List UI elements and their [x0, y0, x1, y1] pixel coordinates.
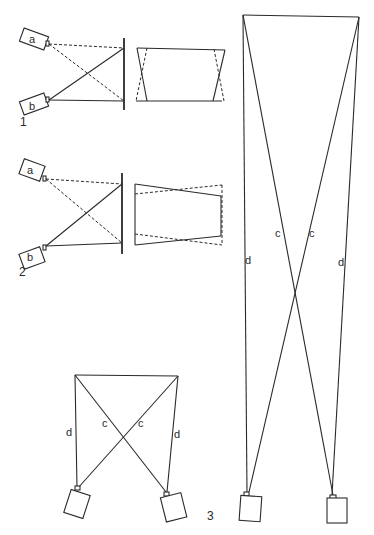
- projected-image-1: [136, 48, 225, 101]
- label-d: d: [338, 256, 344, 268]
- panel-1-number: 1: [20, 115, 27, 129]
- camera-b: b: [19, 93, 49, 115]
- camera-a-label: a: [27, 164, 34, 176]
- screen-3-tall: [243, 15, 359, 17]
- panel-2: a b 2: [19, 159, 222, 279]
- camera-b-label: b: [27, 251, 33, 263]
- label-d: d: [245, 254, 251, 266]
- panel-3-tall: c c d d: [239, 15, 359, 523]
- panel-1: a b 1: [19, 28, 225, 129]
- projector-right: [160, 492, 186, 522]
- panel-3-short: c c d d: [64, 375, 187, 522]
- camera-a: a: [19, 28, 49, 50]
- projector-left: [64, 486, 90, 519]
- projector-left: [239, 492, 262, 522]
- label-d: d: [174, 428, 180, 440]
- label-c: c: [275, 227, 281, 239]
- screen-3-short: [75, 375, 178, 376]
- panel-2-number: 2: [19, 265, 26, 279]
- label-d: d: [66, 426, 72, 438]
- camera-b-label: b: [29, 100, 35, 112]
- panel-3-number: 3: [207, 509, 214, 523]
- projected-image-2: [135, 184, 222, 245]
- diagram-canvas: a b 1 a b: [0, 0, 374, 535]
- label-c: c: [102, 417, 108, 429]
- label-c: c: [138, 417, 144, 429]
- camera-a-label: a: [29, 33, 36, 45]
- projector-right: [327, 495, 347, 523]
- label-c: c: [309, 227, 315, 239]
- figure: a b 1 a b: [0, 0, 374, 535]
- camera-a: a: [19, 159, 46, 182]
